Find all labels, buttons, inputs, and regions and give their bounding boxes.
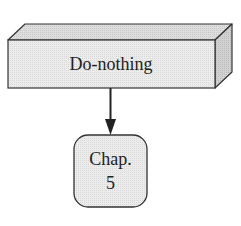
chap-5-label-line1: Chap. [89, 149, 132, 169]
do-nothing-node: Do-nothing [8, 24, 232, 88]
diagram-canvas: Do-nothing Chap. 5 [0, 0, 241, 226]
chap-5-box [74, 135, 147, 207]
arrow-edge [105, 88, 116, 135]
box-top-face [8, 24, 232, 40]
chap-5-label-line2: 5 [106, 173, 115, 193]
do-nothing-label: Do-nothing [70, 54, 153, 74]
arrowhead-icon [105, 119, 116, 135]
chap-5-node: Chap. 5 [74, 135, 147, 207]
